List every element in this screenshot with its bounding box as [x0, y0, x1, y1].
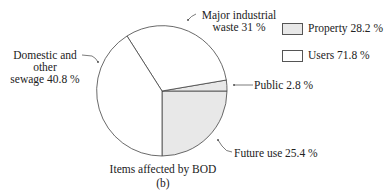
label-industrial: Major industrial waste 31 % — [196, 9, 282, 33]
legend-swatch-property — [282, 23, 303, 35]
label-domestic: Domestic and other sewage 40.8 % — [6, 49, 84, 85]
slice-future-use — [162, 91, 227, 156]
label-domestic-line1: Domestic and — [6, 49, 84, 61]
chart-title: Items affected by BOD — [100, 163, 226, 175]
legend-swatch-users — [282, 50, 303, 62]
label-industrial-line1: Major industrial — [196, 9, 282, 21]
label-domestic-line3: sewage 40.8 % — [6, 73, 84, 85]
label-public: Public 2.8 % — [254, 79, 313, 91]
label-future: Future use 25.4 % — [234, 147, 318, 159]
label-industrial-line2: waste 31 % — [196, 21, 282, 33]
legend-label-users: Users 71.8 % — [308, 49, 370, 61]
chart-subtitle: (b) — [140, 177, 186, 189]
leader-future — [218, 140, 232, 152]
legend-label-property: Property 28.2 % — [308, 22, 383, 34]
label-domestic-line2: other — [6, 61, 84, 73]
leader-domestic — [82, 55, 98, 62]
leader-industrial — [188, 14, 196, 20]
